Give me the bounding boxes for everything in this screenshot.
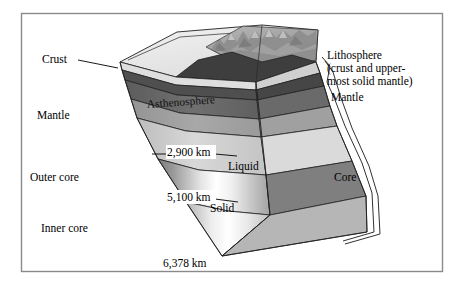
label-lithosphere-line2: (crust and upper- xyxy=(327,62,405,75)
label-lithosphere-line3: most solid mantle) xyxy=(327,75,413,88)
label-mantle-right: Mantle xyxy=(331,91,364,103)
label-outer-core: Outer core xyxy=(30,171,79,183)
figure-container: Crust Mantle Outer core Inner core Asthe… xyxy=(0,0,467,288)
label-liquid: Liquid xyxy=(228,160,259,173)
depth-6378-text: 6,378 km xyxy=(163,257,207,270)
depth-2900-text: 2,900 km xyxy=(167,146,211,159)
label-crust: Crust xyxy=(42,53,68,65)
depth-5100-text: 5,100 km xyxy=(167,191,211,204)
label-mantle-left: Mantle xyxy=(37,109,70,121)
label-inner-core: Inner core xyxy=(41,222,88,234)
earth-structure-diagram: Crust Mantle Outer core Inner core Asthe… xyxy=(0,0,467,288)
label-lithosphere-line1: Lithosphere xyxy=(327,49,382,62)
label-core: Core xyxy=(334,171,356,183)
